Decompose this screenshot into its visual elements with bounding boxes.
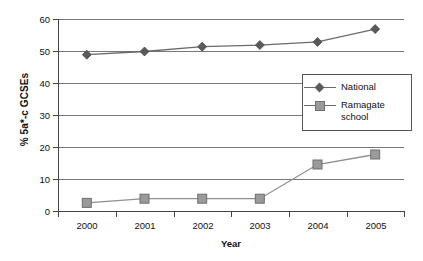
series-markers-national (82, 25, 379, 60)
data-point-national (371, 25, 380, 34)
legend-item-national: National (303, 81, 413, 94)
data-point-ramsgate (313, 160, 322, 169)
series-line-national (87, 29, 375, 55)
legend-label-ramsgate: Ramagateschool (337, 99, 385, 122)
x-tick-label-2000: 2000 (57, 220, 117, 231)
data-point-national (198, 42, 207, 51)
x-tick-label-2005: 2005 (346, 220, 406, 231)
x-tick-label-2004: 2004 (288, 220, 348, 231)
series-line-ramsgate (87, 155, 375, 203)
legend-label-national: National (337, 81, 376, 93)
y-axis-ticks (53, 20, 58, 212)
data-point-national (140, 47, 149, 56)
square-marker-icon (303, 100, 337, 112)
diamond-marker-icon (303, 82, 337, 94)
data-point-national (313, 37, 322, 46)
data-point-ramsgate (371, 150, 380, 159)
legend-label-ramsgate-line1: Ramagate (341, 99, 385, 110)
x-tick-label-2003: 2003 (230, 220, 290, 231)
legend-label-ramsgate-line2: school (341, 111, 368, 122)
data-point-national (255, 41, 264, 50)
x-tick-label-2002: 2002 (173, 220, 233, 231)
x-tick-label-2001: 2001 (115, 220, 175, 231)
data-point-ramsgate (198, 194, 207, 203)
x-axis-title: Year (58, 238, 404, 249)
gcse-results-line-chart: % 5a*-c GCSEs 60 50 40 30 20 10 0 (0, 0, 423, 261)
legend-item-ramsgate: Ramagateschool (303, 99, 413, 122)
data-point-ramsgate (82, 198, 91, 207)
data-point-ramsgate (255, 194, 264, 203)
data-point-ramsgate (140, 194, 149, 203)
chart-legend: National Ramagateschool (302, 74, 412, 131)
